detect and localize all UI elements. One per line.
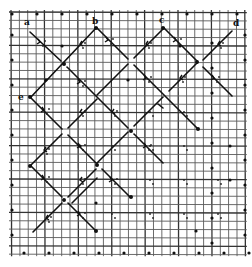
tick-mark <box>186 149 188 151</box>
grid-line-vertical <box>95 10 96 256</box>
lattice-dot <box>222 251 225 254</box>
grid-line-horizontal <box>9 146 247 147</box>
tick-mark <box>116 178 118 180</box>
grid-line-horizontal <box>9 246 247 247</box>
vertex-dot <box>28 164 32 168</box>
path-segment <box>134 134 163 163</box>
grid-line-horizontal <box>9 137 247 138</box>
grid-line-horizontal <box>9 87 247 88</box>
lattice-dot <box>243 233 246 236</box>
grid-line-vertical <box>69 10 70 256</box>
grid-line-vertical <box>86 10 87 256</box>
label-d: d <box>233 18 240 28</box>
lattice-dot <box>10 183 13 186</box>
tick-mark <box>149 179 151 181</box>
lattice-dot <box>247 251 250 254</box>
path-segment <box>30 32 61 61</box>
grid-line-horizontal <box>9 121 247 122</box>
lattice-dot <box>72 251 75 254</box>
tick-mark <box>46 153 48 155</box>
lattice-dot <box>243 108 246 111</box>
lattice-dot <box>97 251 100 254</box>
grid-line-horizontal <box>9 229 247 230</box>
tick-mark <box>183 145 185 147</box>
grid-line-vertical <box>153 10 154 256</box>
grid-line-vertical <box>36 10 37 256</box>
lattice-dot <box>210 166 213 169</box>
grid-line-vertical <box>11 10 12 256</box>
grid-line-vertical <box>228 10 229 256</box>
tick-mark <box>110 43 112 45</box>
tick-mark <box>48 108 50 110</box>
tick-mark <box>82 115 84 117</box>
lattice-dot <box>35 12 38 15</box>
tick-mark <box>149 213 151 215</box>
lattice-dot <box>243 133 246 136</box>
grid-line-horizontal <box>9 154 247 155</box>
vertex-dot <box>196 127 200 131</box>
tick-mark <box>220 183 222 185</box>
lattice-dot <box>228 178 231 181</box>
tick-mark <box>84 144 86 146</box>
tick-mark <box>46 113 48 115</box>
tick-mark <box>220 217 222 219</box>
lattice-diagram: a b c d e <box>0 0 252 267</box>
lattice-dot <box>235 12 238 15</box>
tick-mark <box>114 115 116 117</box>
path-segment <box>169 63 197 91</box>
path-segment <box>72 178 97 203</box>
vertex-dot <box>94 26 98 30</box>
tick-mark <box>152 183 154 185</box>
tick-mark <box>84 42 86 44</box>
lattice-dot <box>10 158 13 161</box>
tick-mark <box>84 80 86 82</box>
lattice-dot <box>243 58 246 61</box>
lattice-dot <box>228 144 231 147</box>
path-segment <box>102 169 130 197</box>
tick-mark <box>149 111 151 113</box>
tick-mark <box>217 179 219 181</box>
grid-line-horizontal <box>9 20 247 21</box>
grid-line-vertical <box>203 10 204 256</box>
tick-mark <box>184 76 186 78</box>
tick-mark <box>217 213 219 215</box>
grid-line-horizontal <box>9 29 247 30</box>
vertex-dot <box>62 198 66 202</box>
lattice-dot <box>126 78 129 81</box>
lattice-dot <box>10 58 13 61</box>
grid-line-vertical <box>19 10 20 256</box>
vertex-dot <box>95 163 99 167</box>
tick-mark <box>186 217 188 219</box>
lattice-dot <box>197 251 200 254</box>
path-segment <box>164 28 197 61</box>
tick-mark <box>111 145 113 147</box>
tick-mark <box>48 148 50 150</box>
lattice-dot <box>210 41 213 44</box>
grid-line-vertical <box>236 10 237 256</box>
grid-line-horizontal <box>9 237 247 238</box>
grid-line-horizontal <box>9 62 247 63</box>
vertex-dot <box>28 95 32 99</box>
tick-mark <box>220 47 222 49</box>
tick-mark <box>186 183 188 185</box>
tick-mark <box>82 217 84 219</box>
grid-line-horizontal <box>9 171 247 172</box>
lattice-dot <box>10 12 13 15</box>
tick-mark <box>46 181 48 183</box>
tick-mark <box>148 47 150 49</box>
tick-mark <box>148 149 150 151</box>
lattice-dot <box>210 141 213 144</box>
tick-mark <box>183 213 185 215</box>
lattice-dot <box>210 116 213 119</box>
grid-line-vertical <box>178 10 179 256</box>
tick-mark <box>48 221 50 223</box>
grid-line-vertical <box>245 10 246 256</box>
path-segment <box>97 132 128 163</box>
grid-line-vertical <box>53 10 54 256</box>
lattice-dot <box>85 12 88 15</box>
tick-mark <box>182 81 184 83</box>
tick-mark <box>148 81 150 83</box>
lattice-dot <box>185 12 188 15</box>
grid-line-horizontal <box>9 70 247 71</box>
tick-mark <box>42 45 44 47</box>
